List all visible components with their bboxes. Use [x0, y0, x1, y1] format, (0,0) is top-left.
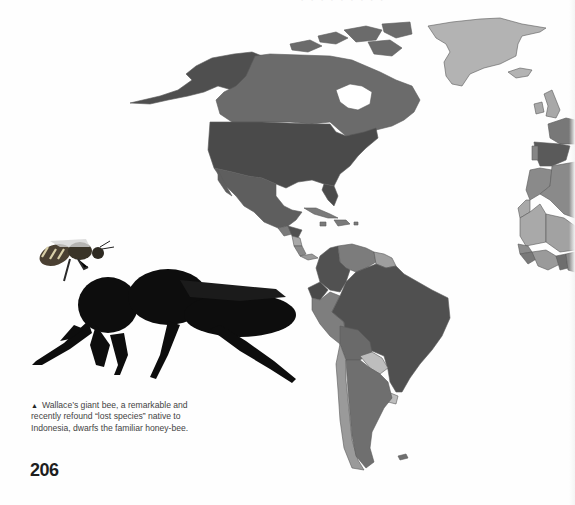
- photo-caption: ▲Wallace’s giant bee, a remarkable and r…: [31, 400, 211, 434]
- honey-bee-image: [37, 239, 114, 281]
- map-region-uk: [544, 90, 560, 118]
- map-region-arctic-islands: [290, 22, 412, 56]
- map-region-hispaniola: [334, 220, 350, 226]
- book-page: · · · · · · · · ·: [0, 0, 575, 505]
- bee-photos: [0, 225, 310, 395]
- caption-triangle-icon: ▲: [31, 402, 38, 409]
- giant-bee-image: [32, 269, 296, 383]
- caption-text: Wallace’s giant bee, a remarkable and re…: [31, 400, 188, 433]
- map-region-cuba: [304, 208, 338, 218]
- page-edge-shadow: [569, 0, 575, 505]
- map-region-spain: [534, 142, 570, 166]
- map-region-florida: [322, 184, 338, 206]
- map-region-iceland: [508, 68, 532, 78]
- map-region-jamaica: [320, 222, 326, 226]
- map-region-west-africa-coast: [532, 250, 560, 270]
- map-region-portugal: [532, 146, 538, 160]
- page-number: 206: [30, 460, 59, 481]
- map-region-ireland: [534, 102, 544, 114]
- map-region-falklands: [398, 454, 408, 460]
- map-region-puerto-rico: [354, 222, 358, 225]
